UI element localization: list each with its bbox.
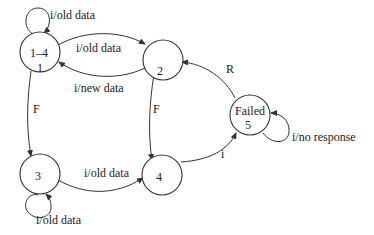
state-4-id-label: 4	[156, 170, 162, 184]
edge-label-s5-self: i/no response	[292, 130, 356, 144]
state-4: 4	[142, 155, 182, 195]
edge-s5-s2: R	[182, 62, 235, 98]
edge-label-s1-self: i/old data	[50, 8, 96, 22]
state-diagram: i/old data i/old data i/new data F F R	[0, 0, 374, 235]
edge-s1-s2: i/old data	[58, 34, 145, 55]
edge-s1-self: i/old data	[26, 8, 96, 34]
edge-label-s3-self: i/old data	[36, 213, 82, 227]
edge-label-s2-s4: F	[153, 102, 160, 116]
state-1-top-label: 1–4	[30, 46, 48, 60]
state-1-id-label: 1	[37, 61, 43, 75]
edge-s3-self: i/old data	[26, 194, 82, 227]
state-3: 3	[20, 154, 60, 194]
edge-label-s4-s5: i	[221, 147, 225, 161]
state-5-top-label: Failed	[235, 104, 265, 118]
edge-label-s2-s1: i/new data	[74, 81, 124, 95]
edge-s1-s3: F	[28, 71, 40, 156]
edge-label-s1-s2: i/old data	[76, 41, 122, 55]
state-5-failed: Failed 5	[230, 95, 270, 135]
edge-s5-self: i/no response	[263, 113, 356, 144]
state-2-id-label: 2	[157, 64, 163, 78]
state-2: 2	[143, 40, 183, 80]
edge-s4-s5: i	[181, 133, 236, 162]
diagram-svg: i/old data i/old data i/new data F F R	[0, 0, 374, 235]
edge-s2-s4: F	[150, 74, 160, 160]
edge-label-s5-s2: R	[226, 62, 234, 76]
edge-label-s1-s3: F	[33, 102, 40, 116]
state-1: 1–4 1	[20, 32, 60, 75]
state-5-id-label: 5	[245, 118, 251, 132]
edge-s2-s1: i/new data	[59, 62, 145, 95]
edge-s3-s4: i/old data	[58, 166, 143, 191]
state-3-id-label: 3	[35, 169, 41, 183]
edge-label-s3-s4: i/old data	[84, 166, 130, 180]
